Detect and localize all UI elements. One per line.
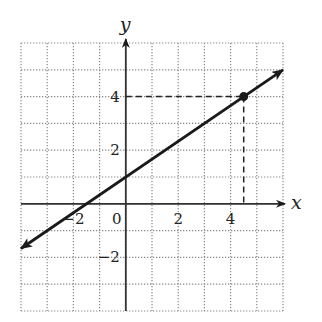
y-axis-label: y — [119, 13, 131, 35]
y-tick-label: −2 — [98, 248, 120, 266]
highlight-point — [239, 92, 248, 101]
y-tick-label: 2 — [110, 141, 120, 159]
coordinate-plane: xy −202442−2 — [0, 0, 322, 322]
x-tick-label: 4 — [226, 210, 236, 228]
x-tick-label: 0 — [112, 210, 122, 228]
x-axis-label: x — [291, 191, 302, 213]
x-tick-label: −2 — [62, 210, 84, 228]
axes: xy — [21, 13, 302, 311]
x-tick-label: 2 — [173, 210, 183, 228]
y-tick-label: 4 — [110, 88, 120, 106]
